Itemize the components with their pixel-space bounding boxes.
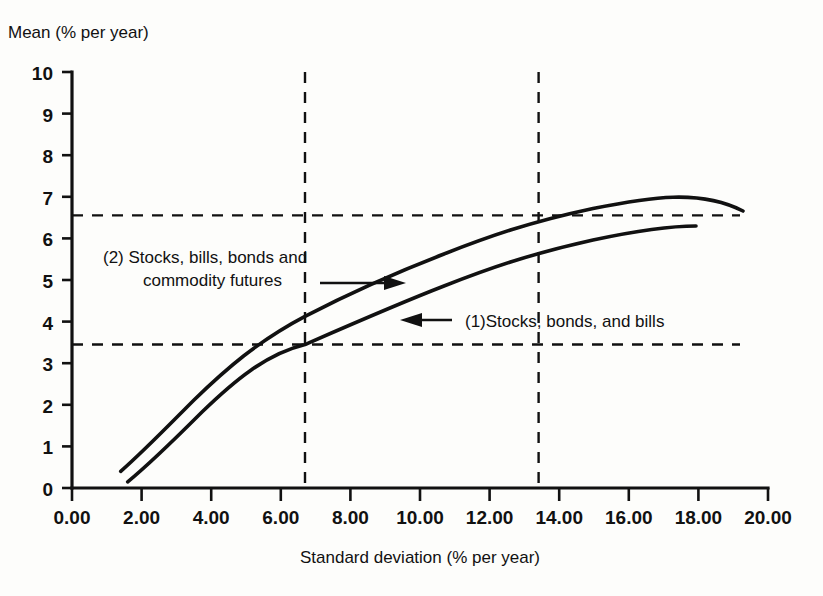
x-tick-label: 14.00 [535,507,583,528]
x-axis-ticks: 0.00 2.00 4.00 6.00 8.00 10.00 [54,488,792,528]
x-axis-title: Standard deviation (% per year) [300,548,540,567]
x-tick-2: 4.00 [193,488,230,528]
efficient-frontier-chart: Mean (% per year) 0 1 2 3 [0,0,823,596]
x-tick-label: 10.00 [396,507,444,528]
x-tick-label: 12.00 [466,507,514,528]
chart-container: Mean (% per year) 0 1 2 3 [0,0,823,596]
y-tick-1: 1 [42,437,72,458]
y-axis-title: Mean (% per year) [8,23,149,42]
y-tick-label: 0 [42,479,53,500]
x-tick-label: 4.00 [193,507,230,528]
x-tick-6: 12.00 [466,488,514,528]
x-tick-0: 0.00 [54,488,91,528]
annotation-series-2: (2) Stocks, bills, bonds and commodity f… [103,248,406,290]
y-tick-9: 9 [42,105,72,126]
y-tick-label: 4 [42,313,53,334]
y-axis-ticks: 0 1 2 3 4 5 6 [32,63,72,500]
x-tick-label: 18.00 [675,507,723,528]
annotation-series-2-line2: commodity futures [143,271,282,290]
y-tick-label: 3 [42,354,53,375]
annotation-series-1-arrow-head [400,313,422,327]
y-tick-6: 6 [42,229,72,250]
x-tick-label: 2.00 [123,507,160,528]
y-tick-5: 5 [42,271,72,292]
annotation-series-1-line1: (1)Stocks, bonds, and bills [465,312,664,331]
y-tick-3: 3 [42,354,72,375]
y-tick-label: 7 [42,188,53,209]
y-tick-label: 9 [42,105,53,126]
annotation-series-2-arrow-head [384,276,406,290]
annotation-series-2-line1: (2) Stocks, bills, bonds and [103,248,307,267]
x-tick-7: 14.00 [535,488,583,528]
y-tick-7: 7 [42,188,72,209]
x-tick-label: 8.00 [332,507,369,528]
y-tick-label: 2 [42,396,53,417]
x-tick-4: 8.00 [332,488,369,528]
x-tick-8: 16.00 [605,488,653,528]
y-tick-label: 1 [42,437,53,458]
y-tick-label: 6 [42,229,53,250]
y-tick-label: 8 [42,146,53,167]
x-tick-3: 6.00 [262,488,299,528]
x-tick-label: 16.00 [605,507,653,528]
x-tick-label: 20.00 [744,507,792,528]
x-tick-1: 2.00 [123,488,160,528]
y-tick-2: 2 [42,396,72,417]
y-tick-label: 5 [42,271,53,292]
y-tick-8: 8 [42,146,72,167]
y-tick-10: 10 [32,63,72,84]
y-tick-4: 4 [42,313,72,334]
y-tick-label: 10 [32,63,53,84]
x-tick-10: 20.00 [744,488,792,528]
data-curves [121,197,743,482]
annotation-series-1: (1)Stocks, bonds, and bills [400,312,664,331]
y-tick-0: 0 [42,479,72,500]
x-tick-label: 6.00 [262,507,299,528]
series-2-curve [121,197,743,471]
x-tick-9: 18.00 [675,488,723,528]
x-tick-label: 0.00 [54,507,91,528]
x-tick-5: 10.00 [396,488,444,528]
